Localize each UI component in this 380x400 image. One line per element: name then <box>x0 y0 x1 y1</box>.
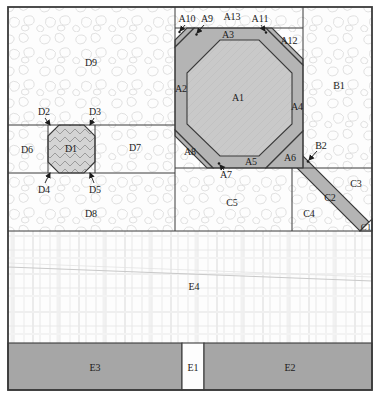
label-c5: C5 <box>226 197 238 208</box>
label-d7: D7 <box>129 142 141 153</box>
label-a9: A9 <box>201 13 213 24</box>
label-a5: A5 <box>245 156 257 167</box>
label-d2: D2 <box>38 106 50 117</box>
label-d9: D9 <box>85 57 97 68</box>
label-a6: A6 <box>284 152 296 163</box>
label-e4: E4 <box>188 281 199 292</box>
label-a7: A7 <box>220 169 232 180</box>
label-a1: A1 <box>232 92 244 103</box>
label-c2: C2 <box>324 192 336 203</box>
label-a12: A12 <box>280 35 297 46</box>
label-a2: A2 <box>175 83 187 94</box>
label-a13: A13 <box>223 11 240 22</box>
label-a11: A11 <box>252 13 269 24</box>
label-a8: A8 <box>184 146 196 157</box>
label-d5: D5 <box>89 184 101 195</box>
label-c3: C3 <box>350 178 362 189</box>
label-a4: A4 <box>291 101 303 112</box>
label-b1: B1 <box>333 80 345 91</box>
diagram-canvas: A13 A10 A9 A11 A12 A3 A2 A1 A4 A8 A5 A6 … <box>0 0 380 400</box>
label-a10: A10 <box>178 13 195 24</box>
label-d4: D4 <box>38 184 50 195</box>
label-e2: E2 <box>284 362 295 373</box>
label-e1: E1 <box>187 362 198 373</box>
label-d3: D3 <box>89 106 101 117</box>
label-e3: E3 <box>89 362 100 373</box>
label-c1: C1 <box>361 222 372 232</box>
label-d6: D6 <box>21 144 33 155</box>
quilt-diagram: A13 A10 A9 A11 A12 A3 A2 A1 A4 A8 A5 A6 … <box>0 0 380 400</box>
label-d8: D8 <box>85 208 97 219</box>
label-c4: C4 <box>303 208 315 219</box>
label-b2: B2 <box>315 140 327 151</box>
label-d1: D1 <box>65 143 77 154</box>
label-a3: A3 <box>222 29 234 40</box>
